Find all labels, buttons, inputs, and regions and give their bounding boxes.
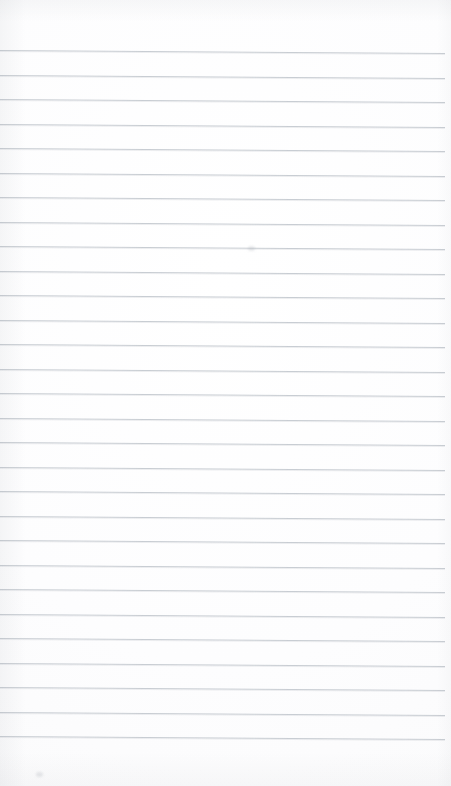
scanned-page: [0, 0, 451, 786]
paper-surface: [0, 0, 451, 786]
